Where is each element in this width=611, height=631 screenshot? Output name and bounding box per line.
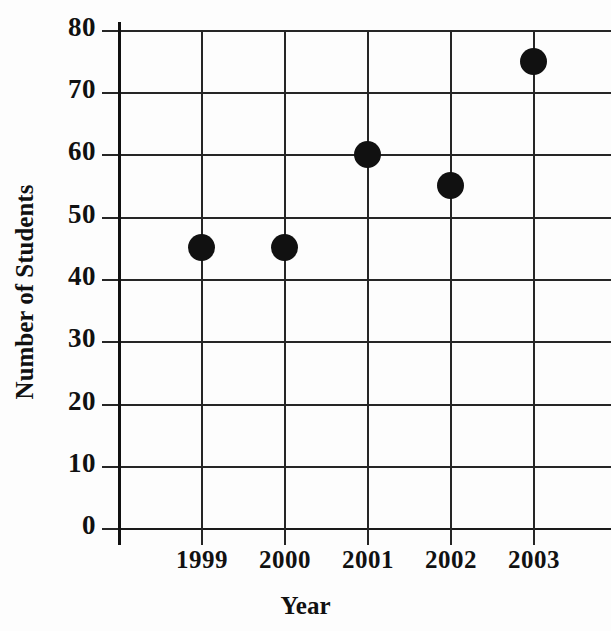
x-tick-label-2002: 2002: [406, 546, 496, 574]
y-tick-80: [102, 30, 118, 32]
y-tick-label-0: 0: [36, 510, 96, 541]
data-point-2003: [520, 48, 547, 75]
y-tick-label-10: 10: [36, 448, 96, 479]
data-point-2002: [437, 172, 464, 199]
y-tick-30: [102, 341, 118, 343]
y-axis-line: [118, 22, 121, 545]
gridline-y-30: [118, 341, 611, 343]
gridline-x-1999: [201, 30, 203, 545]
x-tick-label-2003: 2003: [489, 546, 579, 574]
data-point-2001: [354, 141, 381, 168]
gridline-y-10: [118, 466, 611, 468]
gridline-y-50: [118, 217, 611, 219]
gridline-x-2000: [284, 30, 286, 545]
y-tick-60: [102, 154, 118, 156]
scatter-chart: 80 70 60 50 40 30 20 10 0 1999 2000 2001…: [0, 0, 611, 631]
y-tick-40: [102, 279, 118, 281]
x-axis-title: Year: [0, 592, 611, 620]
y-tick-10: [102, 466, 118, 468]
gridline-y-70: [118, 92, 611, 94]
y-axis-title: Number of Students: [11, 132, 39, 452]
gridline-x-2002: [450, 30, 452, 545]
x-tick-label-2001: 2001: [323, 546, 413, 574]
y-tick-70: [102, 92, 118, 94]
data-point-2000: [271, 234, 298, 261]
y-tick-20: [102, 404, 118, 406]
y-tick-label-50: 50: [36, 199, 96, 230]
data-point-1999: [188, 234, 215, 261]
gridline-y-20: [118, 404, 611, 406]
x-tick-label-2000: 2000: [240, 546, 330, 574]
gridline-y-0: [118, 528, 611, 530]
y-tick-label-70: 70: [36, 74, 96, 105]
y-tick-label-30: 30: [36, 323, 96, 354]
y-tick-label-60: 60: [36, 136, 96, 167]
plot-area: 80 70 60 50 40 30 20 10 0 1999 2000 2001…: [0, 0, 611, 631]
gridline-y-80: [118, 30, 611, 32]
gridline-x-2001: [367, 30, 369, 545]
x-tick-label-1999: 1999: [157, 546, 247, 574]
y-tick-label-80: 80: [36, 12, 96, 43]
y-tick-50: [102, 217, 118, 219]
y-tick-label-20: 20: [36, 386, 96, 417]
gridline-y-40: [118, 279, 611, 281]
y-tick-label-40: 40: [36, 261, 96, 292]
y-tick-0: [102, 528, 118, 530]
gridline-x-2003: [533, 30, 535, 545]
